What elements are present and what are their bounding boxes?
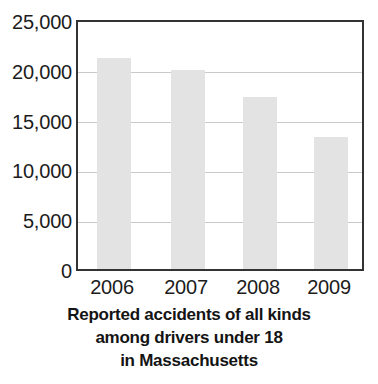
bar-2008 — [243, 97, 277, 269]
y-axis-tick-10000: 10,000 — [0, 161, 72, 181]
bar-2006 — [97, 58, 131, 269]
bar-chart-figure: 25,000 20,000 15,000 10,000 5,000 0 2006… — [0, 0, 378, 384]
y-axis-tick-15000: 15,000 — [0, 112, 72, 132]
bar-2007 — [171, 70, 205, 269]
x-axis-tick-labels: 2006 2007 2008 2009 — [76, 276, 364, 300]
plot-area — [76, 20, 364, 271]
y-axis-tick-20000: 20,000 — [0, 62, 72, 82]
x-axis-tick-2007: 2007 — [151, 276, 221, 298]
x-axis-tick-2006: 2006 — [77, 276, 147, 298]
chart-caption: Reported accidents of all kinds among dr… — [0, 303, 378, 372]
y-axis-tick-5000: 5,000 — [0, 211, 72, 231]
bar-2009 — [314, 137, 348, 269]
x-axis-tick-2008: 2008 — [223, 276, 293, 298]
y-axis-tick-25000: 25,000 — [0, 12, 72, 32]
caption-line-1: Reported accidents of all kinds — [0, 303, 378, 326]
caption-line-3: in Massachusetts — [0, 349, 378, 372]
caption-line-2: among drivers under 18 — [0, 326, 378, 349]
x-axis-tick-2009: 2009 — [294, 276, 364, 298]
y-axis-tick-0: 0 — [0, 261, 72, 281]
